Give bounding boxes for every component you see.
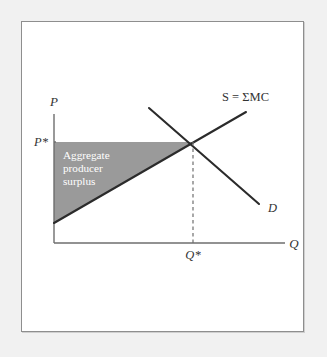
p-star-label: P* bbox=[33, 135, 49, 149]
q-star-label: Q* bbox=[185, 248, 201, 262]
surplus-caption-line-2: producer bbox=[63, 162, 103, 174]
x-axis-label: Q bbox=[289, 236, 299, 251]
y-axis-label: P bbox=[49, 94, 58, 109]
demand-curve-label: D bbox=[267, 201, 277, 215]
figure-root: P Q P* Q* S = ΣMC D Aggregate producer s… bbox=[0, 0, 327, 357]
surplus-caption-line-1: Aggregate bbox=[63, 149, 110, 161]
surplus-caption-line-3: surplus bbox=[63, 175, 95, 187]
supply-curve-label: S = ΣMC bbox=[222, 90, 269, 104]
figure-panel: P Q P* Q* S = ΣMC D Aggregate producer s… bbox=[21, 21, 304, 332]
supply-demand-plot: P Q P* Q* S = ΣMC D Aggregate producer s… bbox=[22, 22, 305, 333]
